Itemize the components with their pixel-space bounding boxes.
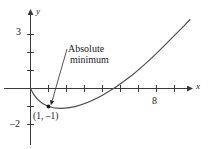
plot-canvas bbox=[0, 0, 208, 149]
y-tick-label-negative-2: –2 bbox=[10, 119, 20, 130]
x-axis-label: x bbox=[196, 82, 200, 91]
function-curve bbox=[31, 20, 191, 109]
y-axis-label: y bbox=[36, 7, 40, 16]
graph-figure: y x 3 –2 8 (1, –1) Absoluteminimum bbox=[0, 0, 208, 149]
absolute-minimum-annotation: Absoluteminimum bbox=[68, 44, 109, 65]
annotation-line-2: minimum bbox=[70, 55, 109, 66]
callout-leader-line bbox=[52, 49, 68, 103]
annotation-line-1: Absolute bbox=[68, 43, 104, 54]
minimum-point-coordinates-label: (1, –1) bbox=[33, 112, 58, 122]
minimum-point-marker bbox=[47, 105, 51, 109]
y-tick-label-3: 3 bbox=[16, 27, 21, 38]
x-tick-label-8: 8 bbox=[152, 96, 157, 107]
